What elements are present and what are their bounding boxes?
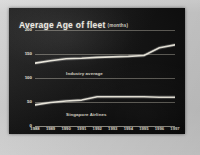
y-tick-label-100: 100	[25, 76, 32, 80]
x-tick-label-1992: 1992	[93, 127, 102, 131]
slide-title-unit: (months)	[108, 23, 128, 28]
series-line-0	[35, 45, 175, 63]
x-axis-tick-labels: 1988198919901991199219931994199519961997	[35, 127, 175, 134]
x-tick-label-1990: 1990	[61, 127, 70, 131]
x-tick-label-1991: 1991	[77, 127, 86, 131]
x-tick-label-1989: 1989	[46, 127, 55, 131]
x-tick-label-1997: 1997	[170, 127, 179, 131]
series-caption-1: Singapore Airlines	[66, 113, 106, 117]
photo-background: Average Age of fleet(months) 05010015020…	[0, 0, 200, 155]
x-tick-label-1996: 1996	[155, 127, 164, 131]
x-tick-label-1994: 1994	[124, 127, 133, 131]
chart-plot-area: 050100150200Industry averageSingapore Ai…	[35, 30, 175, 126]
x-tick-label-1988: 1988	[30, 127, 39, 131]
x-tick-label-1995: 1995	[139, 127, 148, 131]
series-glow-1	[35, 97, 175, 105]
y-tick-label-200: 200	[25, 28, 32, 32]
presentation-slide: Average Age of fleet(months) 05010015020…	[9, 8, 185, 134]
series-caption-0: Industry average	[66, 72, 103, 76]
y-tick-label-150: 150	[25, 52, 32, 56]
x-tick-label-1993: 1993	[108, 127, 117, 131]
y-tick-label-50: 50	[27, 100, 32, 104]
